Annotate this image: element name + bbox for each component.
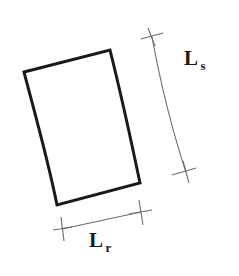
dimension-tick-ls-bottom bbox=[172, 168, 196, 175]
quadrilateral-outline bbox=[24, 50, 140, 205]
dimension-label-lr-subscript: r bbox=[106, 240, 112, 255]
dimension-label-ls-symbol: L bbox=[184, 46, 199, 70]
figure-drawing bbox=[0, 0, 239, 276]
dimension-line-ls bbox=[152, 37, 186, 172]
dimension-label-ls-subscript: s bbox=[201, 58, 206, 73]
dimension-label-lr-symbol: L bbox=[89, 228, 104, 252]
dimension-label-lr: Lr bbox=[89, 230, 109, 251]
figure-canvas: Ls Lr bbox=[0, 0, 239, 276]
dimension-line-lr bbox=[62, 212, 141, 229]
dimension-label-ls: Ls bbox=[184, 48, 204, 69]
